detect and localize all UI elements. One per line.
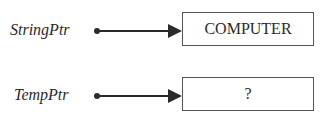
cell-value: COMPUTER [204, 20, 291, 38]
memory-cell-tempptr: ? [182, 77, 314, 111]
arrow-stringptr [94, 24, 182, 38]
memory-cell-stringptr: COMPUTER [182, 12, 314, 46]
cell-value: ? [244, 85, 251, 103]
arrow-tempptr [94, 89, 182, 103]
